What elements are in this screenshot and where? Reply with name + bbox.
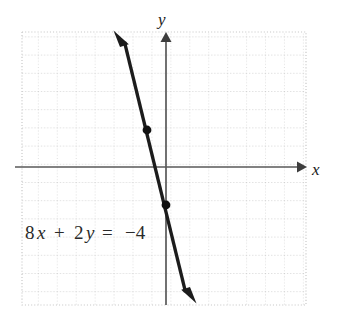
equation-coef-x: 8 bbox=[25, 222, 35, 243]
graph-figure: x y 8 x + 2 y = −4 bbox=[0, 0, 338, 321]
grid bbox=[22, 32, 306, 305]
y-axis-label: y bbox=[156, 10, 166, 29]
point-marker bbox=[162, 201, 171, 210]
coordinate-plane-svg: x y 8 x + 2 y = −4 bbox=[0, 0, 338, 321]
equation-annotation: 8 x + 2 y = −4 bbox=[25, 222, 146, 243]
equation-var-x: x bbox=[36, 222, 46, 243]
equation-right-hand-side: −4 bbox=[125, 222, 146, 243]
equation-equals-sign: = bbox=[102, 222, 113, 243]
equation-plus-sign: + bbox=[54, 222, 65, 243]
point-marker bbox=[143, 126, 152, 135]
x-axis-label: x bbox=[311, 160, 320, 179]
grid-dots bbox=[22, 32, 306, 305]
equation-coef-y: 2 bbox=[74, 222, 84, 243]
equation-var-y: y bbox=[84, 222, 95, 243]
